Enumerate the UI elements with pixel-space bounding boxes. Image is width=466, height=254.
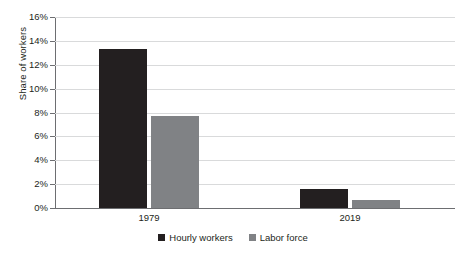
y-axis-tick-label: 0% <box>4 203 48 213</box>
chart-legend: Hourly workersLabor force <box>0 233 466 243</box>
gridline <box>55 41 455 42</box>
legend-item-labor-force[interactable]: Labor force <box>249 233 308 243</box>
y-axis-tick-label: 12% <box>4 60 48 70</box>
legend-swatch-icon <box>249 234 256 241</box>
bar-1979-hourly-workers <box>99 49 147 208</box>
x-axis-category-label: 1979 <box>109 212 189 223</box>
y-axis-tick-label: 2% <box>4 179 48 189</box>
legend-item-hourly-workers[interactable]: Hourly workers <box>158 233 232 243</box>
x-axis-baseline <box>55 208 455 209</box>
y-axis-tick-label: 8% <box>4 108 48 118</box>
bar-chart: Share of workers 0%2%4%6%8%10%12%14%16% … <box>0 0 466 254</box>
y-axis-tick-label: 4% <box>4 155 48 165</box>
bar-1979-labor-force <box>151 116 199 208</box>
x-axis-category-label: 2019 <box>310 212 390 223</box>
y-axis-tick-label: 14% <box>4 36 48 46</box>
legend-label: Hourly workers <box>169 233 232 243</box>
plot-area <box>55 17 455 208</box>
y-axis-tick-label: 6% <box>4 131 48 141</box>
legend-label: Labor force <box>260 233 308 243</box>
y-axis-tick-label: 10% <box>4 84 48 94</box>
y-axis-tick-label: 16% <box>4 12 48 22</box>
legend-swatch-icon <box>158 234 165 241</box>
bar-2019-hourly-workers <box>300 189 348 208</box>
bar-2019-labor-force <box>352 200 400 208</box>
gridline <box>55 17 455 18</box>
